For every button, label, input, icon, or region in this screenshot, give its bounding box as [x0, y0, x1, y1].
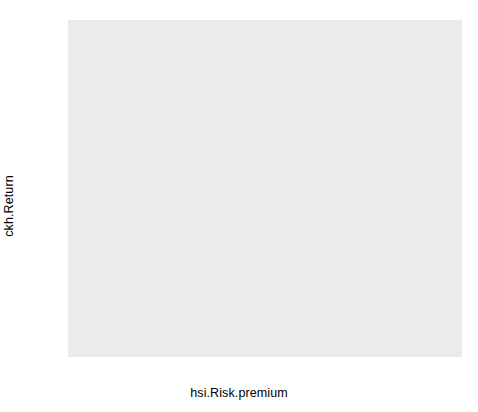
plot-panel-background	[68, 20, 462, 357]
plot-canvas	[0, 0, 478, 412]
x-axis-title: hsi.Risk.premium	[0, 386, 478, 400]
scatter-plot-figure: ckh.Return hsi.Risk.premium	[0, 0, 478, 412]
y-axis-title: ckh.Return	[0, 0, 18, 412]
